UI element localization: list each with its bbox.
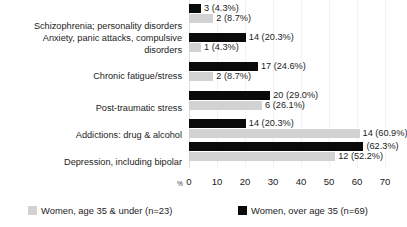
bar-wrapper: 2 (8.7%)	[189, 14, 406, 23]
legend-item-women-35-and-under: Women, age 35 & under (n=23)	[28, 204, 172, 217]
legend-item-women-over-35: Women, over age 35 (n=69)	[238, 204, 368, 217]
bar-dark	[189, 91, 270, 100]
legend-swatch-dark	[238, 206, 247, 215]
bar-value-label: 14 (60.9%)	[363, 128, 407, 140]
category-label: Post-traumatic stress	[0, 103, 182, 115]
plot-area: Schizophrenia; personality disorders3 (4…	[0, 0, 406, 172]
x-axis: % 010203040506070	[0, 176, 406, 192]
x-tick-label-10: 10	[212, 176, 223, 188]
legend-label-women-35-and-under: Women, age 35 & under (n=23)	[41, 204, 172, 217]
bar-light	[189, 101, 262, 110]
bar-value-label: 12 (52.2%)	[338, 151, 383, 163]
x-tick-label-60: 60	[352, 176, 363, 188]
bar-dark	[189, 4, 201, 13]
chart-legend: Women, age 35 & under (n=23) Women, over…	[0, 204, 406, 220]
bar-value-label: 2 (8.7%)	[216, 13, 251, 25]
bar-wrapper: 2 (8.7%)	[189, 72, 406, 81]
bar-group: 3 (4.3%)2 (8.7%)	[189, 4, 406, 24]
bar-wrapper: 14 (60.9%)	[189, 129, 406, 138]
bar-light	[189, 14, 213, 23]
category-label: Anxiety, panic attacks, compulsive disor…	[0, 33, 182, 56]
bar-light	[189, 152, 335, 161]
bar-light	[189, 43, 201, 52]
bar-group: 17 (24.6%)2 (8.7%)	[189, 62, 406, 82]
category-label: Addictions: drug & alcohol	[0, 130, 182, 142]
bar-dark	[189, 119, 246, 128]
bar-wrapper: 1 (4.3%)	[189, 43, 406, 52]
bar-value-label: 2 (8.7%)	[216, 71, 251, 83]
x-tick-label-70: 70	[380, 176, 391, 188]
x-tick-label-30: 30	[268, 176, 279, 188]
x-tick-label-20: 20	[240, 176, 251, 188]
x-tick-label-0: 0	[186, 176, 191, 188]
legend-label-women-over-35: Women, over age 35 (n=69)	[251, 204, 368, 217]
x-axis-unit-label: %	[177, 180, 183, 188]
bar-value-label: 6 (26.1%)	[265, 100, 305, 112]
x-tick-label-50: 50	[324, 176, 335, 188]
category-label: Chronic fatigue/stress	[0, 71, 182, 83]
bar-value-label: 14 (20.3%)	[249, 118, 294, 130]
bar-wrapper: 6 (26.1%)	[189, 101, 406, 110]
bar-light	[189, 129, 360, 138]
category-label: Depression, including bipolar	[0, 157, 182, 169]
x-tick-label-40: 40	[296, 176, 307, 188]
bar-group: 20 (29.0%)6 (26.1%)	[189, 91, 406, 111]
bar-value-label: 1 (4.3%)	[204, 42, 239, 54]
bar-value-label: 14 (20.3%)	[249, 32, 294, 44]
bar-group: 14 (20.3%)1 (4.3%)	[189, 33, 406, 53]
bar-value-label: 17 (24.6%)	[261, 61, 306, 73]
bar-group: 14 (20.3%)14 (60.9%)	[189, 119, 406, 139]
bar-wrapper: 12 (52.2%)	[189, 152, 406, 161]
bar-light	[189, 72, 213, 81]
category-label: Schizophrenia; personality disorders	[0, 21, 182, 33]
bar-group: (62.3%)12 (52.2%)	[189, 142, 406, 162]
legend-swatch-light	[28, 206, 37, 215]
